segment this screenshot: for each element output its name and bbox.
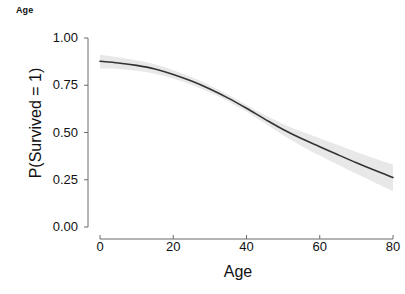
plot-canvas <box>0 0 405 294</box>
fit-line <box>100 61 393 177</box>
x-axis-line <box>100 235 393 239</box>
chart-figure: Age P(Survived = 1) Age 0.000.250.500.75… <box>0 0 405 294</box>
confidence-band-group <box>100 55 393 191</box>
y-axis-line <box>84 38 88 227</box>
fit-line-group <box>100 61 393 177</box>
confidence-band <box>100 55 393 191</box>
